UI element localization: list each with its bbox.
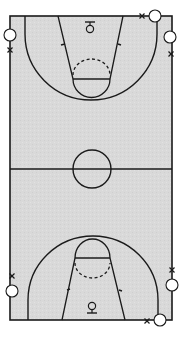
court-svg	[0, 0, 184, 340]
player-marker-p4	[6, 285, 18, 297]
player-marker-p1	[4, 29, 16, 41]
top-lane-hash-right	[118, 44, 121, 45]
bottom-lane-hash-right	[119, 290, 122, 291]
player-marker-p6	[154, 314, 166, 326]
court-diagram	[0, 0, 184, 340]
top-lane-hash-left	[61, 44, 65, 45]
player-marker-p5	[166, 279, 178, 291]
player-marker-p2	[149, 10, 161, 22]
bottom-lane-hash-left	[67, 289, 70, 290]
player-marker-p3	[164, 31, 176, 43]
court-boundary	[10, 16, 172, 320]
